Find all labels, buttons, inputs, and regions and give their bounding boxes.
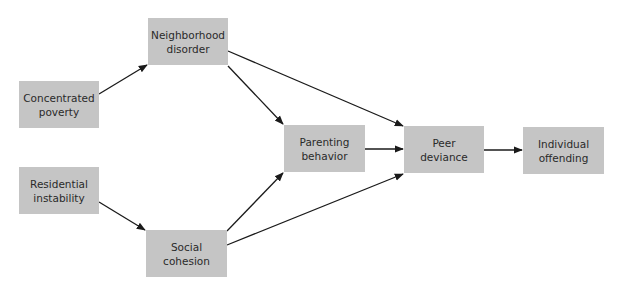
edge-cohesion-to-parenting <box>227 173 283 231</box>
edge-disorder-to-peer <box>228 51 403 126</box>
node-social-cohesion: Socialcohesion <box>146 230 227 277</box>
node-neighborhood-disorder: Neighborhooddisorder <box>148 18 228 65</box>
node-peer-deviance: Peerdeviance <box>404 126 484 173</box>
node-parenting-behavior: Parentingbehavior <box>284 125 365 172</box>
edge-disorder-to-parenting <box>228 66 283 124</box>
node-label-line1: Residential <box>30 177 88 191</box>
edge-poverty-to-disorder <box>99 65 147 94</box>
node-label-line2: disorder <box>151 42 225 56</box>
node-label-line2: instability <box>30 191 88 205</box>
node-individual-offending: Individualoffending <box>523 127 604 174</box>
node-residential-instability: Residentialinstability <box>19 167 99 214</box>
node-label-line1: Individual <box>538 137 589 151</box>
node-label-line2: poverty <box>23 105 94 119</box>
node-label-line2: offending <box>538 151 589 165</box>
node-label-line1: Neighborhood <box>151 28 225 42</box>
node-label-line1: Peer <box>420 136 468 150</box>
node-label-line1: Parenting <box>300 135 350 149</box>
node-label-line2: cohesion <box>163 254 210 268</box>
edge-cohesion-to-peer <box>227 174 403 245</box>
node-label-line1: Social <box>163 240 210 254</box>
edge-instability-to-cohesion <box>99 202 145 230</box>
path-diagram: Neighborhooddisorder Concentratedpoverty… <box>0 0 620 289</box>
node-concentrated-poverty: Concentratedpoverty <box>19 81 99 128</box>
node-label-line2: behavior <box>300 149 350 163</box>
node-label-line1: Concentrated <box>23 91 94 105</box>
node-label-line2: deviance <box>420 150 468 164</box>
